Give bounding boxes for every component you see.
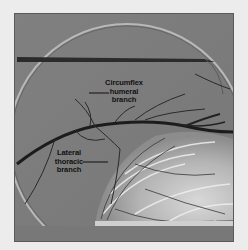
- angiogram-graphic: [15, 14, 234, 242]
- angiogram-image: Circumflex humeral branch Lateral thorac…: [14, 13, 234, 242]
- lateral-thoracic-branch-label: Lateral thoracic branch: [49, 149, 89, 175]
- circumflex-humeral-branch-label: Circumflex humeral branch: [101, 79, 147, 105]
